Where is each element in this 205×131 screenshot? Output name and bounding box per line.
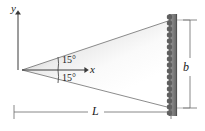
length-dimension-label: L	[92, 105, 99, 117]
figure-container: y x 15° 15° b L	[0, 0, 205, 131]
height-dimension-label: b	[183, 61, 189, 73]
wedge-body	[22, 20, 171, 108]
angle-label-upper: 15°	[62, 55, 76, 65]
y-axis-label: y	[11, 3, 16, 14]
angle-label-lower: 15°	[62, 73, 76, 83]
x-axis-label: x	[90, 64, 95, 75]
wedge-diagram-svg	[0, 0, 205, 131]
wall-support	[167, 14, 177, 116]
